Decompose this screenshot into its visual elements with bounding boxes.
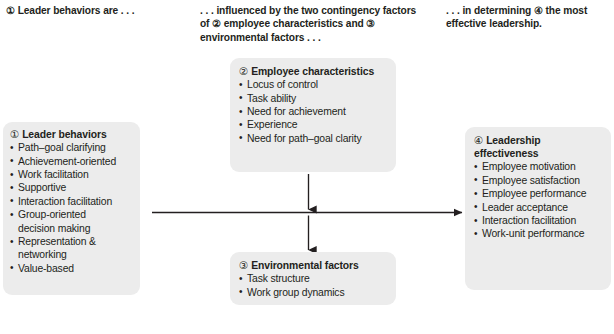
list-item: Achievement-oriented [10, 155, 134, 168]
list-item: Path–goal clarifying [10, 141, 134, 154]
list-item: Group-oriented [10, 208, 134, 221]
box-leader-behaviors-list: Path–goal clarifying Achievement-oriente… [10, 141, 134, 275]
list-item: Task structure [239, 272, 390, 285]
box-leader-behaviors-title: ① Leader behaviors [10, 128, 134, 141]
circled-number-1: ① [10, 128, 19, 140]
list-item: Need for path–goal clarity [239, 132, 390, 145]
list-item-continuation: networking [10, 248, 134, 261]
box-environmental-factors-list: Task structure Work group dynamics [239, 272, 390, 299]
list-item: Leader acceptance [474, 201, 605, 214]
list-item: Value-based [10, 262, 134, 275]
box-environmental-factors-title-text: Environmental factors [251, 260, 359, 271]
list-item: Need for achievement [239, 105, 390, 118]
list-item: Supportive [10, 181, 134, 194]
diagram-canvas: ① Leader behaviors are . . . . . . influ… [0, 0, 614, 334]
box-employee-characteristics-title-text: Employee characteristics [251, 66, 374, 77]
list-item: Experience [239, 118, 390, 131]
circled-number-2: ② [239, 65, 248, 77]
list-item: Work facilitation [10, 168, 134, 181]
caption-center: . . . influenced by the two contingency … [200, 4, 422, 44]
box-leader-behaviors: ① Leader behaviors Path–goal clarifying … [3, 122, 140, 295]
list-item: Interaction facilitation [474, 214, 605, 227]
box-employee-characteristics: ② Employee characteristics Locus of cont… [230, 58, 396, 172]
list-item: Employee motivation [474, 160, 605, 173]
box-employee-characteristics-title: ② Employee characteristics [239, 65, 390, 78]
circled-number-4: ④ [474, 134, 483, 146]
circled-number-3: ③ [239, 259, 248, 271]
list-item: Employee satisfaction [474, 174, 605, 187]
box-environmental-factors-title: ③ Environmental factors [239, 259, 390, 272]
list-item: Task ability [239, 92, 390, 105]
list-item: Employee performance [474, 187, 605, 200]
caption-left: ① Leader behaviors are . . . [6, 4, 206, 17]
list-item: Interaction facilitation [10, 195, 134, 208]
box-environmental-factors: ③ Environmental factors Task structure W… [230, 252, 396, 305]
box-leadership-effectiveness: ④ Leadership effectiveness Employee moti… [465, 127, 611, 290]
list-item: Work group dynamics [239, 286, 390, 299]
list-item-continuation: decision making [10, 222, 134, 235]
box-leadership-effectiveness-list: Employee motivation Employee satisfactio… [474, 160, 605, 240]
box-leader-behaviors-title-text: Leader behaviors [22, 129, 106, 140]
list-item: Work-unit performance [474, 227, 605, 240]
list-item: Locus of control [239, 78, 390, 91]
list-item: Representation & [10, 235, 134, 248]
box-employee-characteristics-list: Locus of control Task ability Need for a… [239, 78, 390, 145]
caption-right: . . . in determining ④ the most effectiv… [446, 4, 612, 31]
box-leadership-effectiveness-title: ④ Leadership effectiveness [474, 134, 605, 160]
